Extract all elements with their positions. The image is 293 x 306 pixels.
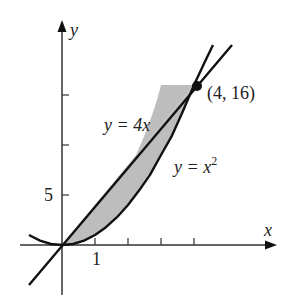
graph-canvas: y x 5 1 (4, 16) y = 4x y = x2 [0, 0, 293, 306]
parabola-equation-label: y = x2 [172, 154, 217, 177]
x-tick-label-1: 1 [92, 249, 101, 269]
parabola-label-exponent: 2 [211, 154, 217, 168]
x-axis-label: x [263, 220, 272, 240]
y-axis-label: y [68, 20, 78, 40]
line-equation-label: y = 4x [102, 115, 150, 135]
y-axis-arrow-icon [58, 20, 67, 32]
x-ticks [95, 238, 194, 245]
line-label-var: x [141, 115, 150, 135]
y-tick-label-5: 5 [44, 185, 53, 205]
intersection-point [192, 81, 202, 91]
parabola-label-prefix: y = [172, 157, 203, 177]
parabola-y-x-squared [29, 45, 213, 245]
point-label: (4, 16) [207, 83, 255, 104]
x-axis-arrow-icon [265, 241, 277, 250]
parabola-label-var: x [202, 157, 211, 177]
line-label-prefix: y = 4 [102, 115, 142, 135]
y-ticks [62, 95, 69, 195]
